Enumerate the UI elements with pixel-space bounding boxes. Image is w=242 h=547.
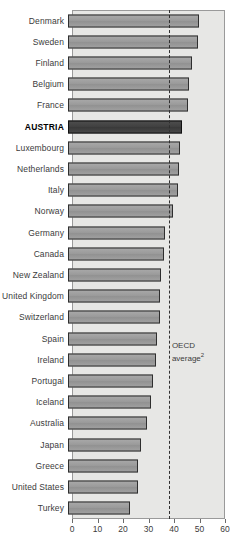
bar-track [68, 31, 221, 52]
bar-track [68, 498, 221, 519]
bar-row: Canada [0, 243, 242, 264]
bar-track [68, 10, 221, 31]
category-label-united-kingdom: United Kingdom [0, 291, 68, 301]
category-label-ireland: Ireland [0, 355, 68, 365]
bar-track [68, 413, 221, 434]
x-tick-label-60: 60 [220, 524, 229, 534]
bar-track [68, 180, 221, 201]
bar-row: Australia [0, 413, 242, 434]
x-tick-label-20: 20 [118, 524, 127, 534]
oecd-average-label: OECDaverage2 [172, 341, 204, 363]
bar-row: Portugal [0, 370, 242, 391]
bar-track [68, 455, 221, 476]
x-tick-10 [98, 519, 99, 523]
bar-row: New Zealand [0, 264, 242, 285]
category-label-spain: Spain [0, 334, 68, 344]
category-label-united-states: United States [0, 482, 68, 492]
bar-germany [68, 226, 165, 239]
bar-track [68, 434, 221, 455]
bar-row: Ireland [0, 349, 242, 370]
x-tick-40 [174, 519, 175, 523]
bar-belgium [68, 78, 189, 91]
bar-row: Luxembourg [0, 137, 242, 158]
category-label-france: France [0, 100, 68, 110]
bar-row: AUSTRIA [0, 116, 242, 137]
bar-row: Netherlands [0, 158, 242, 179]
bar-austria [68, 120, 182, 133]
bar-greece [68, 459, 138, 472]
bar-row: Spain [0, 328, 242, 349]
bar-track [68, 95, 221, 116]
x-tick-label-50: 50 [195, 524, 204, 534]
bar-chart: DenmarkSwedenFinlandBelgiumFranceAUSTRIA… [0, 0, 242, 547]
bar-ireland [68, 353, 156, 366]
bar-row: Denmark [0, 10, 242, 31]
category-label-sweden: Sweden [0, 37, 68, 47]
category-label-austria: AUSTRIA [0, 122, 68, 132]
bar-iceland [68, 396, 151, 409]
bar-row: Belgium [0, 74, 242, 95]
bar-track [68, 370, 221, 391]
category-label-switzerland: Switzerland [0, 312, 68, 322]
oecd-average-label-line2: average2 [172, 351, 204, 363]
x-axis: 0102030405060 [72, 519, 225, 547]
category-label-portugal: Portugal [0, 376, 68, 386]
bar-norway [68, 205, 173, 218]
bar-track [68, 74, 221, 95]
bar-row: United States [0, 476, 242, 497]
x-tick-30 [149, 519, 150, 523]
bar-row: Turkey [0, 498, 242, 519]
bar-row: Iceland [0, 392, 242, 413]
x-tick-20 [123, 519, 124, 523]
category-label-belgium: Belgium [0, 79, 68, 89]
bar-track [68, 201, 221, 222]
x-tick-50 [200, 519, 201, 523]
bar-track [68, 264, 221, 285]
bar-rows: DenmarkSwedenFinlandBelgiumFranceAUSTRIA… [0, 10, 242, 519]
bar-row: Greece [0, 455, 242, 476]
category-label-iceland: Iceland [0, 397, 68, 407]
bar-track [68, 307, 221, 328]
bar-united-states [68, 481, 138, 494]
bar-track [68, 286, 221, 307]
bar-spain [68, 332, 157, 345]
bar-row: Switzerland [0, 307, 242, 328]
bar-track [68, 476, 221, 497]
bar-finland [68, 57, 192, 70]
bar-portugal [68, 375, 153, 388]
bar-track [68, 137, 221, 158]
x-tick-label-0: 0 [70, 524, 75, 534]
bar-denmark [68, 14, 199, 27]
bar-row: Italy [0, 180, 242, 201]
x-tick-label-30: 30 [144, 524, 153, 534]
bar-australia [68, 417, 147, 430]
bar-track [68, 243, 221, 264]
bar-row: France [0, 95, 242, 116]
bar-new-zealand [68, 269, 161, 282]
bar-japan [68, 438, 141, 451]
bar-track [68, 52, 221, 73]
bar-united-kingdom [68, 290, 160, 303]
bar-row: Sweden [0, 31, 242, 52]
category-label-new-zealand: New Zealand [0, 270, 68, 280]
category-label-japan: Japan [0, 440, 68, 450]
category-label-netherlands: Netherlands [0, 164, 68, 174]
chart-title-fragment [72, 0, 132, 4]
x-tick-0 [72, 519, 73, 523]
bar-row: Finland [0, 52, 242, 73]
bar-row: Germany [0, 222, 242, 243]
category-label-greece: Greece [0, 461, 68, 471]
bar-track [68, 158, 221, 179]
bar-track [68, 392, 221, 413]
oecd-average-footnote-marker: 2 [201, 352, 204, 358]
category-label-australia: Australia [0, 418, 68, 428]
category-label-norway: Norway [0, 206, 68, 216]
category-label-finland: Finland [0, 58, 68, 68]
bar-netherlands [68, 163, 179, 176]
category-label-canada: Canada [0, 249, 68, 259]
bar-row: Japan [0, 434, 242, 455]
category-label-germany: Germany [0, 228, 68, 238]
oecd-average-line [169, 10, 170, 519]
x-tick-label-10: 10 [93, 524, 102, 534]
bar-turkey [68, 502, 130, 515]
